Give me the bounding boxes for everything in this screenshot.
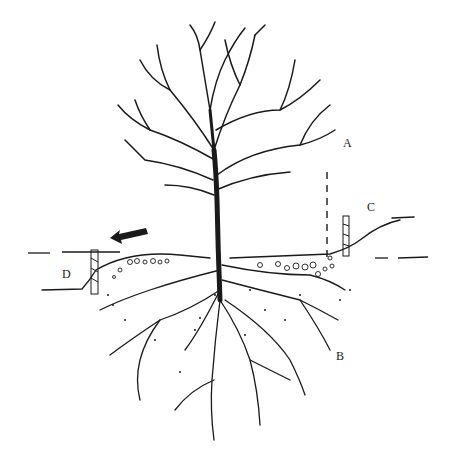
label-d: D [62,267,71,282]
ground-line [28,252,428,258]
label-b: B [336,349,344,364]
tree-drawing [0,0,453,467]
tree-root-diagram: A B C D [0,0,453,467]
label-c: C [367,200,375,215]
post-c [343,216,349,256]
arrow-icon [110,228,148,244]
label-a: A [343,136,352,151]
